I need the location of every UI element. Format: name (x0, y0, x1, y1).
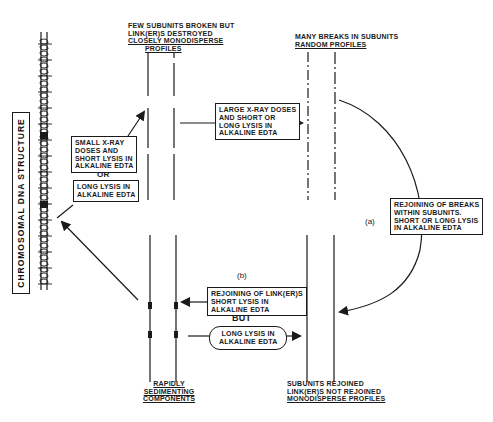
path-label-b: (b) (237, 271, 247, 280)
but-label: BUT (232, 315, 251, 323)
condition-long-lysis-left: LONG LYSIS IN ALKALINE EDTA (73, 180, 139, 202)
condition-rejoining-within: REJOINING OF BREAKS WITHIN SUBUNITS. SHO… (390, 198, 483, 235)
diagram-title: CHROMOSOMAL DNA STRUCTURE (12, 112, 30, 294)
condition-small-xray: SMALL X-RAY DOSES AND SHORT LYSIS IN ALK… (71, 136, 137, 173)
path-label-a: (a) (365, 217, 375, 226)
chromosome-coil-icon (38, 39, 52, 284)
state-subunits-rejoined: SUBUNITS REJOINED LINK(ER)S NOT REJOINED… (287, 380, 385, 403)
or-label: OR (97, 171, 109, 179)
state-rapidly-sedimenting: RAPIDLY SEDIMENTING COMPONENTS (143, 380, 195, 403)
condition-long-lysis-bottom: LONG LYSIS IN ALKALINE EDTA (209, 326, 287, 350)
condition-rejoining-linkers: REJOINING OF LINK(ER)S SHORT LYSIS IN AL… (207, 287, 307, 316)
state-few-subunits-broken: FEW SUBUNITS BROKEN BUT LINK(ER)S DESTRO… (128, 22, 235, 52)
chromosome-icon (41, 32, 47, 290)
condition-large-xray: LARGE X-RAY DOSES AND SHORT OR LONG LYSI… (215, 103, 300, 140)
state-many-breaks: MANY BREAKS IN SUBUNITS RANDOM PROFILES (295, 33, 398, 48)
